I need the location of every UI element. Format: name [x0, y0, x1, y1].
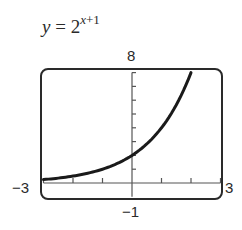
graph-plot	[0, 0, 242, 230]
axes	[44, 73, 221, 197]
exponential-curve	[44, 73, 192, 180]
